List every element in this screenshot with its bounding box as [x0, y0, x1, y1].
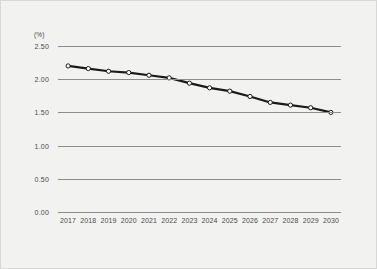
gridline [58, 146, 341, 147]
gridline [58, 112, 341, 113]
data-point-marker [86, 66, 90, 70]
gridline [58, 179, 341, 180]
data-point-marker [228, 89, 232, 93]
x-tick-label: 2024 [202, 217, 218, 224]
x-tick-label: 2018 [80, 217, 96, 224]
y-tick-label: 2.00 [35, 76, 49, 83]
gridline [58, 46, 341, 47]
x-tick-label: 2017 [60, 217, 76, 224]
x-tick-label: 2027 [262, 217, 278, 224]
y-tick-label: 1.00 [35, 142, 49, 149]
x-tick-label: 2029 [303, 217, 319, 224]
gridline [58, 79, 341, 80]
data-point-marker [127, 70, 131, 74]
axis-unit-label: (%) [34, 31, 45, 38]
gridline [58, 212, 341, 213]
y-tick-label: 0.00 [35, 209, 49, 216]
x-tick-label: 2021 [141, 217, 157, 224]
data-point-marker [268, 100, 272, 104]
x-tick-label: 2023 [181, 217, 197, 224]
plot-area [58, 46, 341, 212]
data-point-marker [187, 81, 191, 85]
data-point-marker [288, 103, 292, 107]
x-tick-label: 2030 [323, 217, 339, 224]
data-point-marker [208, 86, 212, 90]
y-tick-label: 1.50 [35, 109, 49, 116]
chart-figure: (%) 0.000.501.001.502.002.50201720182019… [0, 0, 377, 269]
y-tick-label: 2.50 [35, 43, 49, 50]
y-tick-label: 0.50 [35, 175, 49, 182]
x-tick-label: 2022 [161, 217, 177, 224]
data-point-marker [309, 106, 313, 110]
line-series [58, 46, 341, 212]
data-point-marker [147, 73, 151, 77]
x-tick-label: 2019 [101, 217, 117, 224]
x-tick-label: 2025 [222, 217, 238, 224]
data-point-marker [106, 69, 110, 73]
x-tick-label: 2028 [282, 217, 298, 224]
x-tick-label: 2020 [121, 217, 137, 224]
data-point-marker [248, 94, 252, 98]
x-tick-label: 2026 [242, 217, 258, 224]
data-point-marker [66, 64, 70, 68]
